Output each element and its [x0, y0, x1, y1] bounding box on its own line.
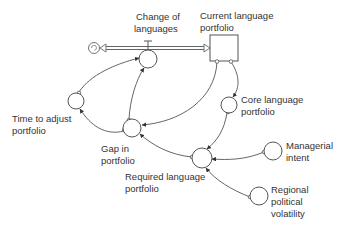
aux-time-to-adjust-portfolio[interactable]: Time to adjust portfolio [12, 93, 84, 136]
aux-label: portfolio [101, 155, 135, 166]
stock-flow-diagram: Change of languages Current language por… [0, 0, 339, 226]
aux-regional-political-volatility[interactable]: Regional political volatility [250, 184, 309, 219]
stock-current-language-portfolio[interactable]: Current language portfolio [200, 10, 273, 61]
flow-label: languages [134, 23, 178, 34]
link-managerial-to-required [212, 152, 264, 159]
aux-label: portfolio [12, 125, 46, 136]
aux-label: Core language [241, 94, 303, 105]
stock-label: portfolio [200, 22, 234, 33]
aux-label: portfolio [241, 106, 275, 117]
link-stock-to-gap [142, 62, 217, 125]
flow-label: Change of [136, 11, 180, 22]
aux-managerial-intent[interactable]: Managerial intent [264, 140, 333, 163]
link-time-to-change [79, 58, 139, 92]
link-stock-to-core [231, 62, 238, 97]
aux-core-language-portfolio[interactable]: Core language portfolio [221, 94, 303, 117]
stock-label: Current language [200, 10, 273, 21]
valve-icon [144, 41, 152, 49]
aux-label: Required language [125, 171, 205, 182]
link-regional-to-required [206, 168, 250, 197]
aux-label: Time to adjust [12, 113, 72, 124]
link-gap-to-change [129, 68, 144, 119]
link-gap-to-time [80, 109, 124, 132]
aux-label: political [271, 196, 303, 207]
aux-label: Regional [271, 184, 309, 195]
flow-change-of-languages[interactable]: Change of languages [134, 11, 180, 68]
link-required-to-gap [140, 134, 192, 157]
aux-label: volatility [271, 208, 305, 219]
aux-gap-in-portfolio[interactable]: Gap in portfolio [101, 119, 141, 166]
aux-label: portfolio [125, 183, 159, 194]
flow-pipe [100, 44, 210, 52]
aux-label: Gap in [101, 143, 129, 154]
cloud-source-icon [89, 43, 100, 54]
aux-label: intent [286, 152, 310, 163]
aux-required-language-portfolio[interactable]: Required language portfolio [125, 148, 212, 194]
link-core-to-required [207, 113, 227, 149]
aux-label: Managerial [286, 140, 333, 151]
